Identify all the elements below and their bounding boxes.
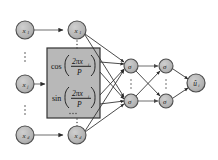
hidden1-node-a-label: σ bbox=[128, 63, 132, 71]
cos-function-label: cos bbox=[51, 62, 62, 71]
cos-denominator: P bbox=[76, 68, 82, 77]
hidden2-node-a-label: σ bbox=[163, 63, 167, 71]
fourier-feature-box: cos 2πx i P sin 2πx i P bbox=[47, 48, 100, 118]
output-node-label: û bbox=[193, 79, 197, 88]
hidden-layer-2: σ σ bbox=[159, 59, 173, 108]
feature-node-x1-sub: 1 bbox=[79, 30, 81, 35]
network-diagram: cos 2πx i P sin 2πx i P bbox=[0, 0, 218, 160]
input-ellipsis-bottom bbox=[24, 105, 26, 115]
sin-denominator: P bbox=[76, 100, 82, 109]
hidden1-node-a[interactable]: σ bbox=[124, 59, 138, 73]
edges-hidden2-to-output bbox=[173, 69, 188, 98]
box-inner-ellipsis bbox=[69, 113, 76, 114]
hidden2-node-b[interactable]: σ bbox=[159, 94, 173, 108]
input-node-x1-sub: 1 bbox=[27, 30, 29, 35]
sin-numerator: 2πx bbox=[72, 89, 84, 98]
feature-node-xd[interactable]: x d bbox=[68, 126, 86, 144]
hidden1-ellipsis bbox=[130, 79, 131, 88]
hidden2-node-b-label: σ bbox=[163, 98, 167, 106]
sin-function-label: sin bbox=[52, 94, 61, 103]
cos-numerator: 2πx bbox=[72, 57, 84, 66]
input-node-xj[interactable]: x j bbox=[16, 75, 34, 93]
output-node[interactable]: û i bbox=[187, 74, 205, 92]
feature-node-x1[interactable]: x 1 bbox=[68, 21, 86, 39]
hidden1-node-b-label: σ bbox=[128, 98, 132, 106]
hidden-layer-1: σ σ bbox=[124, 59, 138, 108]
feature-ellipsis-bottom bbox=[76, 118, 77, 126]
figure-canvas: cos 2πx i P sin 2πx i P bbox=[0, 0, 218, 160]
hidden2-node-a[interactable]: σ bbox=[159, 59, 173, 73]
hidden2-ellipsis bbox=[165, 79, 166, 88]
hidden1-node-b[interactable]: σ bbox=[124, 94, 138, 108]
edges-hidden1-to-hidden2-cross bbox=[136, 71, 160, 96]
input-layer: x 1 x j x d bbox=[16, 21, 34, 144]
edge-h2b-out bbox=[173, 88, 188, 98]
edge-h2a-out bbox=[173, 69, 188, 79]
input-node-xd[interactable]: x d bbox=[16, 126, 34, 144]
edge-box-h1a bbox=[100, 62, 124, 64]
input-node-x1[interactable]: x 1 bbox=[16, 21, 34, 39]
input-ellipsis-top bbox=[24, 52, 26, 62]
